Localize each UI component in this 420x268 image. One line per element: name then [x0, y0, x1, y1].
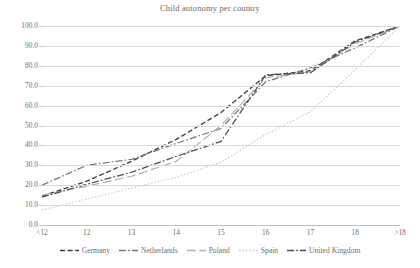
gridline: [42, 165, 400, 166]
x-axis-tick-label: 17: [307, 228, 314, 237]
x-axis-tick-label: 16: [262, 228, 269, 237]
x-axis-tick-label: 14: [173, 228, 180, 237]
chart-container: Child autonomy per country 0.010.020.030…: [0, 0, 420, 268]
legend-item-poland[interactable]: Poland: [187, 246, 230, 255]
legend-label: Germany: [82, 246, 110, 255]
y-axis-tick-label: 40.0: [2, 141, 38, 149]
y-axis-tick-label: 70.0: [2, 82, 38, 90]
y-axis-tick-label: 0.0: [2, 221, 38, 229]
legend-swatch-icon: [119, 247, 138, 254]
chart-legend: GermanyNetherlandsPolandSpainUnited King…: [0, 246, 420, 255]
gridline: [42, 46, 400, 47]
gridline: [42, 86, 400, 87]
legend-label: Spain: [261, 246, 278, 255]
plot-area: [42, 26, 400, 225]
x-axis-tick-label: <12: [36, 228, 48, 237]
gridline: [42, 205, 400, 206]
y-axis-tick-label: 80.0: [2, 62, 38, 70]
y-axis-tick-label: 10.0: [2, 201, 38, 209]
legend-label: Poland: [209, 246, 230, 255]
legend-item-germany[interactable]: Germany: [60, 246, 110, 255]
y-axis-tick-label: 30.0: [2, 161, 38, 169]
legend-label: United Kingdom: [309, 246, 360, 255]
x-axis-labels: <1212131415161718>18: [42, 228, 400, 242]
x-axis-tick-label: >18: [394, 228, 406, 237]
y-axis-tick-label: 50.0: [2, 122, 38, 130]
legend-item-netherlands[interactable]: Netherlands: [119, 246, 178, 255]
legend-item-united-kingdom[interactable]: United Kingdom: [287, 246, 360, 255]
legend-swatch-icon: [239, 247, 258, 254]
gridline: [42, 26, 400, 27]
gridline: [42, 106, 400, 107]
gridline: [42, 66, 400, 67]
x-axis-tick-label: 18: [352, 228, 359, 237]
x-axis-tick-label: 13: [128, 228, 135, 237]
legend-swatch-icon: [187, 247, 206, 254]
legend-swatch-icon: [60, 247, 79, 254]
chart-title: Child autonomy per country: [0, 3, 420, 13]
legend-item-spain[interactable]: Spain: [239, 246, 278, 255]
y-axis-tick-label: 90.0: [2, 42, 38, 50]
y-axis-labels: 0.010.020.030.040.050.060.070.080.090.01…: [0, 0, 38, 268]
gridline: [42, 145, 400, 146]
legend-swatch-icon: [287, 247, 306, 254]
y-axis-tick-label: 20.0: [2, 181, 38, 189]
y-axis-tick-label: 100.0: [2, 22, 38, 30]
legend-label: Netherlands: [141, 246, 178, 255]
x-axis-tick-label: 15: [217, 228, 224, 237]
x-axis-line: [42, 225, 400, 226]
gridline: [42, 185, 400, 186]
gridline: [42, 126, 400, 127]
y-axis-tick-label: 60.0: [2, 102, 38, 110]
x-axis-tick-label: 12: [83, 228, 90, 237]
